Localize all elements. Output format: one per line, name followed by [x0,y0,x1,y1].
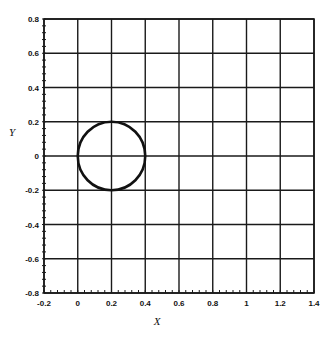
x-tick-label: 1.4 [308,299,320,308]
y-axis-title: Y [9,126,17,138]
chart-plot: -0.200.20.40.60.811.21.4 0.80.60.40.20-0… [0,0,334,341]
y-tick-label: 0.2 [28,118,40,127]
x-tick-label: 0.6 [173,299,185,308]
x-axis-title: X [153,315,162,327]
x-tick-label: -0.2 [37,299,51,308]
y-tick-label: 0.6 [28,49,40,58]
x-tick-label: 0.4 [140,299,152,308]
y-tick-label: -0.8 [25,289,39,298]
y-tick-label: -0.2 [25,186,39,195]
y-tick-label: 0 [35,152,40,161]
y-axis-tick-labels: 0.80.60.40.20-0.2-0.4-0.6-0.8 [25,15,39,298]
y-tick-label: 0.4 [28,84,40,93]
y-tick-label: 0.8 [28,15,40,24]
y-tick-label: -0.6 [25,255,39,264]
x-tick-label: 0.2 [106,299,118,308]
x-tick-label: 0 [76,299,81,308]
y-tick-label: -0.4 [25,221,39,230]
grid-lines [44,19,314,293]
x-axis-tick-labels: -0.200.20.40.60.811.21.4 [37,299,320,308]
x-tick-label: 1.2 [275,299,287,308]
x-tick-label: 0.8 [207,299,219,308]
x-tick-label: 1 [244,299,249,308]
